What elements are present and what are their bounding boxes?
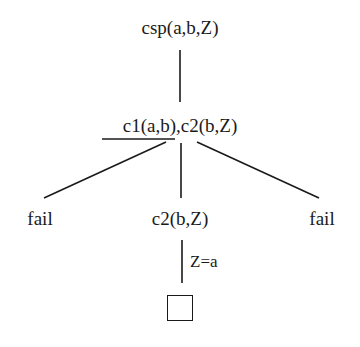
empty-clause-icon	[167, 295, 193, 321]
root-node: csp(a,b,Z)	[141, 18, 218, 38]
selected-literal: c1(a,b)	[123, 115, 176, 136]
left-fail-text: fail	[27, 208, 52, 229]
middle-goal-text: c2(b,Z)	[152, 208, 208, 229]
middle-node: c2(b,Z)	[152, 209, 208, 229]
goal-node: c1(a,b),c2(b,Z)	[123, 116, 237, 136]
remaining-literal: c2(b,Z)	[181, 115, 237, 136]
edge-goal-to-right-fail	[197, 142, 319, 198]
substitution-text: Z=a	[190, 252, 218, 271]
edge-goal-to-left-fail	[44, 142, 166, 198]
substitution-label: Z=a	[190, 253, 218, 271]
root-goal-text: csp(a,b,Z)	[141, 17, 218, 38]
right-fail-text: fail	[309, 208, 334, 229]
left-fail-node: fail	[27, 209, 52, 229]
right-fail-node: fail	[309, 209, 334, 229]
